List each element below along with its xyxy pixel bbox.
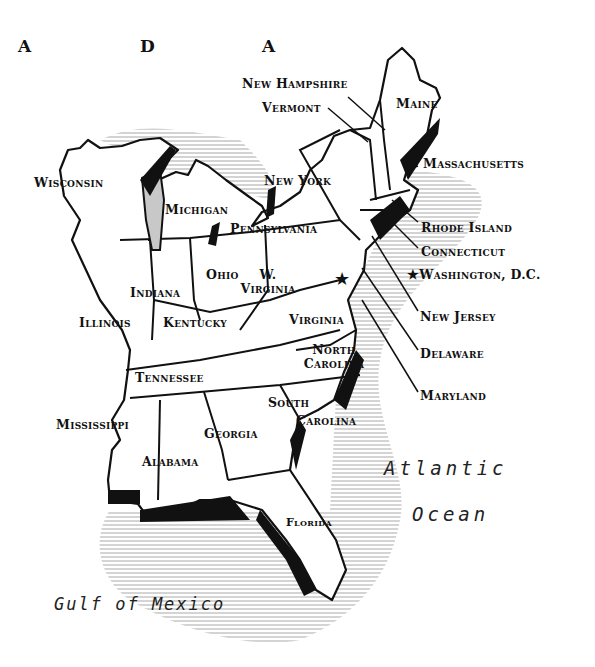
label-maine: Maine — [396, 97, 438, 111]
label-south-carolina-2: Carolina — [296, 414, 356, 428]
label-virginia: Virginia — [289, 313, 344, 327]
label-rhode-island: Rhode Island — [421, 221, 512, 235]
eastern-us-map: ★ A D A New Hampshire Vermont Maine Mass… — [0, 0, 595, 667]
label-alabama: Alabama — [142, 455, 199, 469]
label-new-york: New York — [264, 174, 331, 188]
label-michigan: Michigan — [165, 203, 228, 217]
label-new-jersey: New Jersey — [420, 310, 496, 324]
label-north-carolina: NorthCarolina — [296, 343, 372, 371]
label-pennsylvania: Pennsylvania — [230, 222, 317, 236]
capital-label: Washington, D.C. — [419, 267, 540, 282]
label-delaware: Delaware — [420, 347, 484, 361]
label-connecticut: Connecticut — [421, 245, 505, 259]
label-ohio: Ohio — [206, 268, 239, 282]
canada-letter-2: D — [140, 36, 155, 56]
label-washington-dc: ★Washington, D.C. — [407, 268, 541, 282]
label-wisconsin: Wisconsin — [34, 176, 104, 190]
label-south-carolina-1: South — [268, 396, 309, 410]
label-west-virginia: W.Virginia — [240, 268, 296, 296]
canada-letter-1: A — [18, 36, 31, 56]
label-illinois: Illinois — [79, 316, 131, 330]
label-new-hampshire: New Hampshire — [242, 77, 348, 91]
canada-letter-3: A — [262, 36, 275, 56]
label-gulf-of-mexico: Gulf of Mexico — [54, 594, 225, 614]
label-indiana: Indiana — [130, 286, 180, 300]
label-massachusetts: Massachusetts — [423, 157, 524, 171]
label-tennessee: Tennessee — [135, 371, 204, 385]
label-ocean: Ocean — [412, 503, 489, 525]
capital-star-icon: ★ — [407, 267, 419, 282]
label-atlantic: Atlantic — [384, 457, 508, 479]
label-maryland: Maryland — [420, 389, 486, 403]
label-kentucky: Kentucky — [163, 316, 227, 330]
capital-star-icon: ★ — [334, 269, 350, 289]
label-vermont: Vermont — [262, 101, 321, 115]
label-mississippi: Mississippi — [56, 418, 129, 432]
label-florida: Florida — [286, 516, 332, 530]
label-georgia: Georgia — [204, 427, 258, 441]
